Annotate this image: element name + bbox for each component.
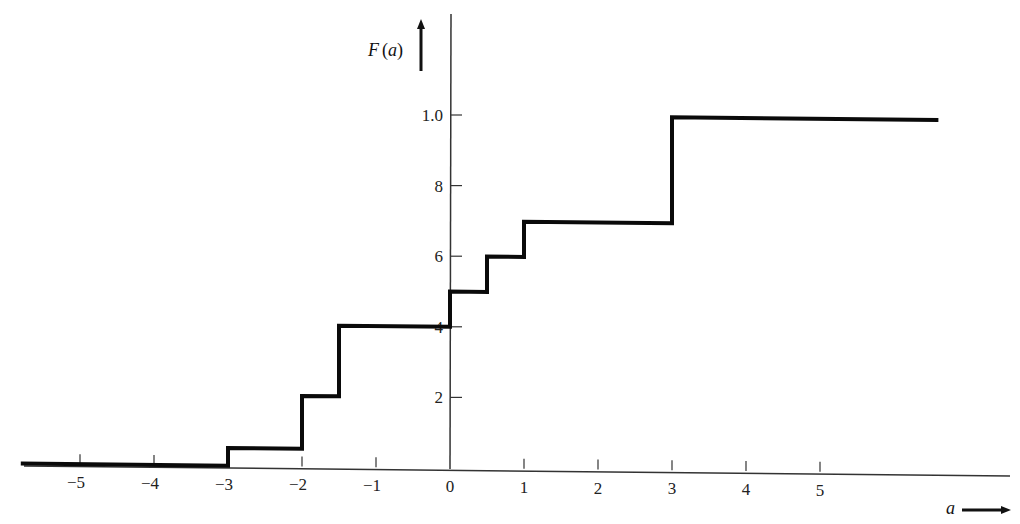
y-tick-label: 2 xyxy=(435,388,444,407)
x-tick-label: 3 xyxy=(668,479,677,498)
x-tick-label: −5 xyxy=(67,473,85,492)
x-tick-label: 4 xyxy=(742,480,751,499)
x-tick-label: −4 xyxy=(141,474,160,493)
y-axis-title: F(a) xyxy=(367,24,421,71)
y-axis xyxy=(450,14,451,469)
y-tick-label: 8 xyxy=(435,177,444,196)
step-function-chart: −5−4−3−2−1012345 24681.0 F(a) a xyxy=(0,0,1020,524)
x-axis-ticks: −5−4−3−2−1012345 xyxy=(67,454,824,500)
x-axis-title-text: a xyxy=(946,498,955,518)
y-tick-label: 1.0 xyxy=(422,106,443,125)
axes xyxy=(24,14,1010,476)
x-tick-label: −1 xyxy=(363,476,381,495)
y-axis-title-text: F(a) xyxy=(367,40,403,61)
y-axis-ticks: 24681.0 xyxy=(422,106,462,407)
x-tick-label: −2 xyxy=(289,475,307,494)
x-axis xyxy=(24,466,1010,476)
x-axis-title: a xyxy=(946,498,1006,518)
cdf-step-line xyxy=(21,117,939,465)
x-tick-label: −3 xyxy=(215,475,233,494)
y-tick-label: 6 xyxy=(435,247,444,266)
x-tick-label: 2 xyxy=(594,479,603,498)
x-tick-label: 5 xyxy=(816,481,825,500)
x-tick-label: 1 xyxy=(520,478,529,497)
x-tick-label: 0 xyxy=(446,477,455,496)
